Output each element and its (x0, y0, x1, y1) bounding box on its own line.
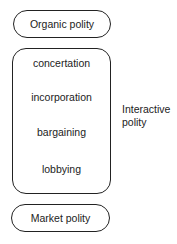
market-polity-label: Market polity (31, 212, 91, 224)
market-polity-node: Market polity (11, 204, 110, 232)
side-label-line2: polity (122, 116, 170, 129)
item-concertation: concertation (13, 57, 110, 69)
organic-polity-label: Organic polity (30, 18, 94, 30)
side-label-line1: Interactive (122, 103, 170, 116)
organic-polity-node: Organic polity (13, 10, 111, 38)
item-incorporation: incorporation (13, 91, 110, 103)
interactive-polity-box: concertation incorporation bargaining lo… (12, 48, 111, 194)
item-lobbying: lobbying (13, 163, 110, 175)
item-bargaining: bargaining (13, 126, 110, 138)
interactive-polity-label: Interactive polity (122, 103, 170, 129)
